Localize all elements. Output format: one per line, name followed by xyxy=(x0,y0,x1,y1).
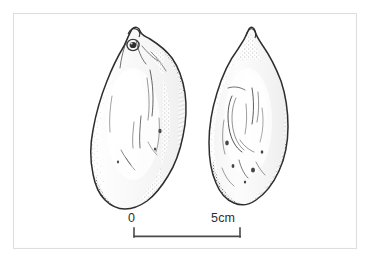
artifact-right-drawing xyxy=(206,27,294,212)
artifact-left-highlight-core xyxy=(110,70,146,150)
scale-bar: 0 5cm xyxy=(125,210,255,244)
scale-bar-rule xyxy=(125,226,255,244)
figure-root: 0 5cm xyxy=(0,0,376,265)
artifact-left-drawing xyxy=(88,27,192,214)
artifact-right-highlight-core xyxy=(235,74,267,150)
scale-bar-max-label: 5cm xyxy=(211,212,235,225)
scale-bar-zero-label: 0 xyxy=(128,212,135,225)
